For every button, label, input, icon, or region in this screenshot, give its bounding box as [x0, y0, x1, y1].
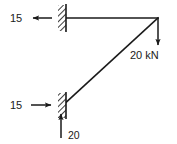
- upper-wall-support: [58, 4, 66, 32]
- applied-load-label: 20 kN: [130, 49, 159, 61]
- lower-vertical-reaction-label: 20: [68, 129, 80, 141]
- upper-reaction-label: 15: [10, 12, 22, 24]
- lower-wall-support: [58, 92, 66, 119]
- lower-reaction-label: 15: [10, 99, 22, 111]
- diagram-canvas: 15 20 kN 15 20: [0, 0, 177, 144]
- diagram-background: [0, 0, 177, 144]
- free-body-diagram: 15 20 kN 15 20: [0, 0, 177, 144]
